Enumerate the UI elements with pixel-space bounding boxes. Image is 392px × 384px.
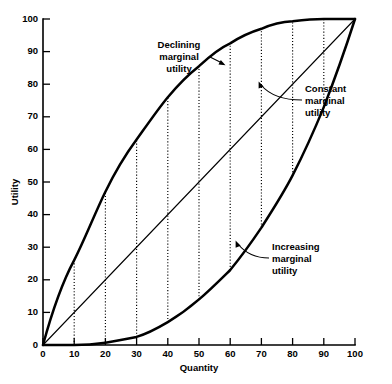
- x-tick-label-70: 70: [256, 348, 267, 359]
- annotation-declining-line2: marginal: [159, 51, 199, 62]
- y-tick-label-0: 0: [33, 339, 38, 350]
- x-tick-label-10: 10: [69, 348, 80, 359]
- annotation-increasing-line2: marginal: [272, 253, 312, 264]
- x-tick-label-90: 90: [319, 348, 330, 359]
- x-tick-label-50: 50: [194, 348, 205, 359]
- x-tick-label-60: 60: [225, 348, 236, 359]
- y-tick-label-40: 40: [27, 208, 38, 219]
- y-tick-label-100: 100: [22, 13, 38, 24]
- y-tick-label-30: 30: [27, 241, 38, 252]
- annotation-increasing-line3: utility: [272, 265, 298, 276]
- y-tick-label-60: 60: [27, 143, 38, 154]
- annotation-constant-line3: utility: [305, 107, 331, 118]
- y-axis-title: Utility: [9, 178, 20, 205]
- annotation-declining-line1: Declining: [158, 39, 201, 50]
- annotation-increasing-line1: Increasing: [272, 241, 320, 252]
- annotation-constant-line2: marginal: [305, 95, 345, 106]
- y-tick-label-70: 70: [27, 110, 38, 121]
- x-tick-label-40: 40: [163, 348, 174, 359]
- utility-curves-chart: 0 10 20 30 40 50 60 70 80 90 100: [0, 0, 392, 384]
- x-tick-label-30: 30: [131, 348, 142, 359]
- y-tick-label-10: 10: [27, 306, 38, 317]
- x-tick-label-20: 20: [100, 348, 111, 359]
- x-tick-label-0: 0: [40, 348, 45, 359]
- chart-figure: 0 10 20 30 40 50 60 70 80 90 100: [0, 0, 392, 384]
- y-tick-label-80: 80: [27, 78, 38, 89]
- y-tick-label-20: 20: [27, 273, 38, 284]
- y-tick-label-90: 90: [27, 45, 38, 56]
- annotation-declining-line3: utility: [166, 63, 192, 74]
- annotation-constant-line1: Constant: [305, 83, 347, 94]
- x-axis-title: Quantity: [180, 362, 219, 373]
- x-tick-label-80: 80: [287, 348, 298, 359]
- x-tick-label-100: 100: [347, 348, 363, 359]
- y-tick-label-50: 50: [27, 176, 38, 187]
